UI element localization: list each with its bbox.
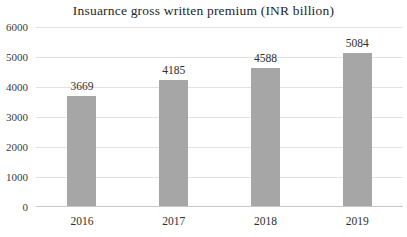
chart-title: Insuarnce gross written premium (INR bil… bbox=[0, 3, 407, 19]
bar-value-label-2019: 5084 bbox=[327, 37, 387, 49]
bar-2019 bbox=[343, 53, 372, 206]
bar-2018 bbox=[251, 68, 280, 206]
bar-value-label-2016: 3669 bbox=[52, 80, 112, 92]
y-axis-label-6000: 6000 bbox=[0, 22, 28, 33]
y-axis-label-0: 0 bbox=[0, 202, 28, 213]
bar-2017 bbox=[159, 80, 188, 206]
x-axis-label-2019: 2019 bbox=[327, 215, 387, 227]
bar-value-label-2017: 4185 bbox=[144, 64, 204, 76]
y-axis-label-5000: 5000 bbox=[0, 52, 28, 63]
bar-value-label-2018: 4588 bbox=[235, 52, 295, 64]
bar-chart: Insuarnce gross written premium (INR bil… bbox=[0, 0, 407, 237]
y-axis-label-2000: 2000 bbox=[0, 142, 28, 153]
y-axis-label-3000: 3000 bbox=[0, 112, 28, 123]
y-axis-label-1000: 1000 bbox=[0, 172, 28, 183]
x-axis-line bbox=[36, 206, 403, 207]
x-axis-label-2016: 2016 bbox=[52, 215, 112, 227]
y-axis-label-4000: 4000 bbox=[0, 82, 28, 93]
x-axis-label-2018: 2018 bbox=[235, 215, 295, 227]
gridline-6000 bbox=[36, 27, 403, 28]
plot-area: 3669418545885084 01000200030004000500060… bbox=[36, 27, 403, 207]
x-axis-label-2017: 2017 bbox=[144, 215, 204, 227]
bar-2016 bbox=[67, 96, 96, 206]
